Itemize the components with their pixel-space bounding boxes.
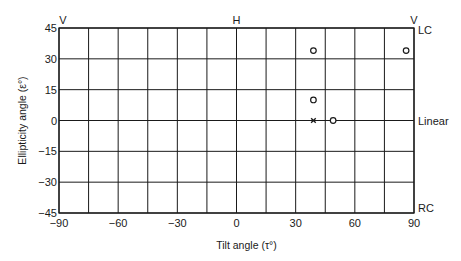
y-tick-label: −15 — [38, 145, 57, 157]
y-tick-labels: 4530150−15−30−45 — [38, 22, 57, 219]
right-annotation: Linear — [418, 115, 449, 127]
y-tick-label: 45 — [45, 22, 57, 34]
circle-marker — [311, 97, 317, 103]
y-tick-label: −45 — [38, 207, 57, 219]
x-tick-label: 0 — [233, 217, 239, 229]
circle-marker — [330, 118, 336, 124]
y-tick-label: 15 — [45, 84, 57, 96]
x-tick-labels: −90−60−300306090 — [50, 217, 420, 229]
top-annotation: H — [233, 14, 241, 26]
y-tick-label: −30 — [38, 176, 57, 188]
circle-marker — [311, 48, 317, 54]
y-tick-label: 30 — [45, 53, 57, 65]
x-tick-label: 30 — [290, 217, 302, 229]
circle-marker — [403, 48, 409, 54]
grid-lines — [59, 28, 414, 213]
x-tick-label: 60 — [349, 217, 361, 229]
right-annotations: LCLinearRC — [418, 24, 449, 214]
x-tick-label: −30 — [168, 217, 187, 229]
y-axis-title: Ellipticity angle (ε°) — [16, 76, 28, 164]
y-tick-label: 0 — [51, 115, 57, 127]
x-tick-label: 90 — [408, 217, 420, 229]
x-tick-label: −60 — [109, 217, 128, 229]
right-annotation: LC — [418, 24, 432, 36]
top-annotation: V — [59, 14, 67, 26]
x-axis-title: Tilt angle (τ°) — [216, 239, 276, 251]
right-annotation: RC — [418, 202, 434, 214]
polarization-chart: −90−60−300306090 4530150−15−30−45 VHV LC… — [0, 0, 461, 261]
top-annotations: VHV — [59, 14, 418, 26]
